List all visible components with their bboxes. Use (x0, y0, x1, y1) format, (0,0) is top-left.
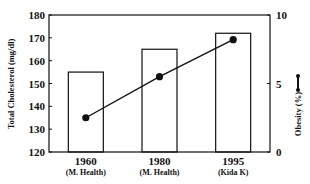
left-axis-label: Total Cholesterol (mg/dl) (6, 39, 16, 130)
obesity-data-point (230, 36, 237, 43)
x-axis: 1960(M. Health)1980(M. Health)1995(Kida … (66, 155, 249, 177)
obesity-data-point (82, 114, 89, 121)
right-tick-label: 10 (276, 9, 288, 21)
x-category-source: (M. Health) (66, 168, 106, 177)
left-tick-label: 150 (29, 78, 46, 90)
cholesterol-obesity-chart: 120130140150160170180 0510 1960(M. Healt… (0, 0, 310, 184)
right-tick-label: 0 (276, 146, 282, 158)
x-category-source: (Kida K) (218, 168, 249, 177)
x-category-label: 1995 (222, 155, 245, 167)
left-tick-label: 160 (29, 55, 46, 67)
cholesterol-bar (68, 72, 103, 152)
left-tick-label: 130 (29, 123, 46, 135)
right-axis-label-text: Obesity (%) (293, 92, 303, 136)
right-axis-label: Obesity (%) (293, 74, 303, 136)
x-category-label: 1960 (75, 155, 98, 167)
left-tick-label: 180 (29, 9, 46, 21)
left-tick-label: 120 (29, 146, 46, 158)
x-category-source: (M. Health) (140, 168, 180, 177)
cholesterol-bar (216, 33, 251, 152)
chart-canvas: 120130140150160170180 0510 1960(M. Healt… (0, 0, 310, 184)
obesity-data-point (156, 73, 163, 80)
cholesterol-bars (68, 33, 250, 152)
legend-line-marker-icon (296, 74, 300, 92)
x-category-label: 1980 (149, 155, 172, 167)
right-tick-label: 5 (276, 78, 282, 90)
cholesterol-bar (142, 49, 177, 152)
left-tick-label: 140 (29, 100, 46, 112)
left-tick-label: 170 (29, 32, 46, 44)
